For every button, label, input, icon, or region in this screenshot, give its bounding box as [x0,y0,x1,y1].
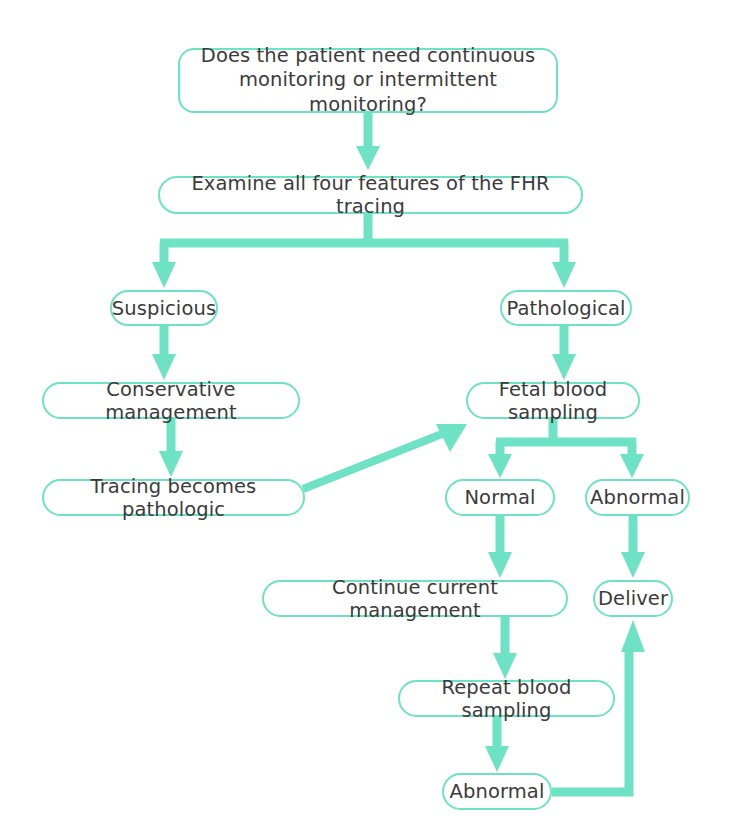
edge-examine-split [152,214,576,288]
node-conservative-management-label: Conservative management [54,378,288,424]
node-normal[interactable]: Normal [445,479,555,516]
edge-continue-to-repeat [493,617,517,679]
node-fetal-blood-sampling-label: Fetal blood sampling [478,378,628,424]
edge-pathological-to-fetal [552,326,576,380]
node-continue-current-management-label: Continue current management [274,576,556,622]
node-examine-label: Examine all four features of the FHR tra… [170,172,571,218]
node-repeat-blood-sampling[interactable]: Repeat blood sampling [398,680,615,717]
node-tracing-becomes-pathologic-label: Tracing becomes pathologic [54,475,293,521]
node-normal-label: Normal [464,486,535,509]
node-tracing-becomes-pathologic[interactable]: Tracing becomes pathologic [42,479,305,516]
node-pathological-label: Pathological [506,297,625,320]
node-examine[interactable]: Examine all four features of the FHR tra… [158,176,583,214]
node-abnormal-second[interactable]: Abnormal [442,773,552,810]
node-pathological[interactable]: Pathological [500,290,632,326]
node-deliver[interactable]: Deliver [593,580,673,617]
node-deliver-label: Deliver [598,587,668,610]
edge-tracing-to-fetal-diagonal [303,424,467,489]
node-abnormal-first[interactable]: Abnormal [585,479,690,516]
edge-conservative-to-tracing [159,419,183,477]
edge-question-to-examine [356,113,380,170]
node-question-label: Does the patient need continuous monitor… [190,44,546,118]
node-abnormal-second-label: Abnormal [450,780,545,803]
edge-fetal-split [488,419,644,478]
node-conservative-management[interactable]: Conservative management [42,382,300,419]
node-continue-current-management[interactable]: Continue current management [262,580,568,617]
edge-suspicious-to-conservative [152,326,176,380]
node-suspicious-label: Suspicious [112,297,216,320]
edge-abnormal-to-deliver [621,516,645,578]
node-fetal-blood-sampling[interactable]: Fetal blood sampling [466,382,640,419]
node-question[interactable]: Does the patient need continuous monitor… [178,48,558,113]
edge-normal-to-continue [488,516,512,578]
node-suspicious[interactable]: Suspicious [110,290,218,326]
node-repeat-blood-sampling-label: Repeat blood sampling [410,676,603,722]
edge-repeat-to-abnormal [485,717,509,772]
node-abnormal-first-label: Abnormal [590,486,685,509]
flowchart-canvas: Does the patient need continuous monitor… [0,0,732,839]
